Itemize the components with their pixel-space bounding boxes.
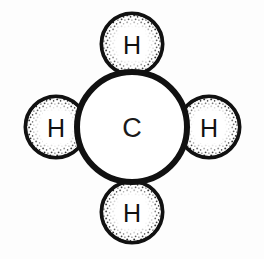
atom-carbon-center: C <box>77 72 187 182</box>
carbon-label: C <box>122 113 142 143</box>
methane-molecule-figure: H H H H C <box>0 0 264 259</box>
atom-hydrogen-bottom: H <box>102 182 162 242</box>
hydrogen-right-label: H <box>200 114 218 142</box>
hydrogen-left-label: H <box>47 114 65 142</box>
hydrogen-top-label: H <box>123 31 141 59</box>
molecule-diagram-canvas: H H H H C <box>0 0 264 259</box>
atom-hydrogen-top: H <box>102 14 162 74</box>
hydrogen-bottom-label: H <box>123 199 141 227</box>
